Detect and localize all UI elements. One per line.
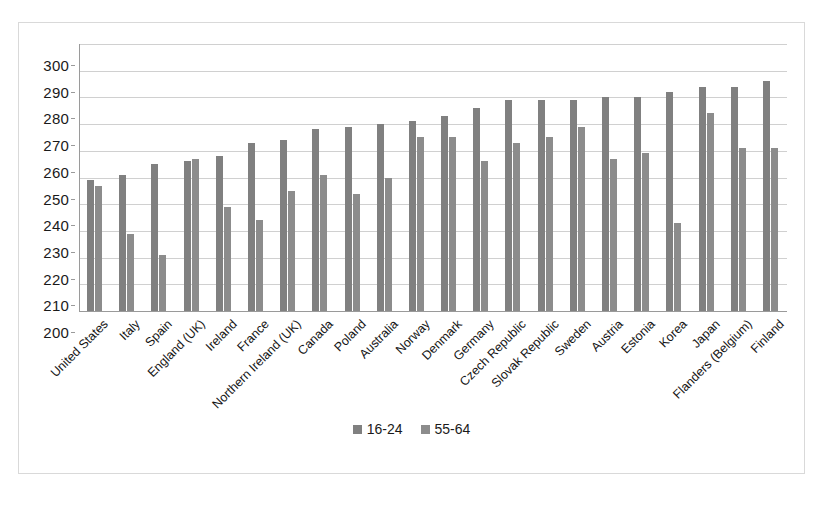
y-tickmark-230 [71,252,75,253]
y-tick-label-240: 240 [43,217,69,234]
bar-55-64 [353,194,360,311]
y-tickmark-250 [71,199,75,200]
bar-group [755,44,787,311]
y-tick-label-250: 250 [43,190,69,207]
y-tick-label-200: 200 [43,324,69,341]
bar-16-24 [377,124,384,311]
plot-area [79,44,787,311]
bar-16-24 [248,143,255,311]
bar-16-24 [570,100,577,311]
bar-group [723,44,755,311]
y-tick-label-260: 260 [43,163,69,180]
y-tick-label-270: 270 [43,137,69,154]
bar-group [530,44,562,311]
bar-55-64 [707,113,714,311]
x-tick-label: Korea [657,317,690,350]
y-tick-label-220: 220 [43,270,69,287]
bar-group [369,44,401,311]
legend-label: 55-64 [435,421,471,437]
bars-layer [79,44,787,311]
y-tickmark-280 [71,118,75,119]
legend-swatch-icon [353,425,362,434]
y-tickmark-220 [71,279,75,280]
bar-55-64 [739,148,746,311]
bar-16-24 [634,97,641,311]
bar-55-64 [288,191,295,311]
bar-group [176,44,208,311]
y-tickmark-200 [71,332,75,333]
bar-16-24 [119,175,126,311]
y-tickmark-260 [71,172,75,173]
y-axis-labels: 300290280270260250240230220210200 [19,44,75,311]
bar-55-64 [449,137,456,311]
bar-55-64 [642,153,649,311]
bar-16-24 [345,127,352,311]
bar-55-64 [674,223,681,311]
legend-swatch-icon [421,425,430,434]
bar-16-24 [666,92,673,311]
y-tickmark-210 [71,305,75,306]
bar-group [433,44,465,311]
x-tick-label: Canada [295,317,336,358]
bar-group [690,44,722,311]
bar-55-64 [159,255,166,311]
bar-55-64 [95,186,102,311]
y-tick-label-300: 300 [43,57,69,74]
bar-55-64 [127,234,134,311]
y-tickmark-290 [71,92,75,93]
bar-16-24 [602,97,609,311]
y-tick-label-290: 290 [43,83,69,100]
bar-16-24 [409,121,416,311]
legend-label: 16-24 [367,421,403,437]
bar-group [208,44,240,311]
bar-55-64 [481,161,488,311]
bar-55-64 [578,127,585,311]
bar-55-64 [192,159,199,311]
bar-group [497,44,529,311]
chart-legend: 16-2455-64 [19,421,804,437]
legend-item[interactable]: 55-64 [421,421,471,437]
gridline-200 [79,311,787,312]
x-axis-category-labels: United StatesItalySpainEngland (UK)Irela… [79,315,787,425]
bar-55-64 [224,207,231,311]
bar-16-24 [505,100,512,311]
bar-group [465,44,497,311]
bar-16-24 [87,180,94,311]
bar-55-64 [256,220,263,311]
x-tick-label: Finland [748,317,787,356]
bar-55-64 [513,143,520,311]
bar-16-24 [538,100,545,311]
bar-55-64 [385,178,392,312]
bar-16-24 [280,140,287,311]
bar-group [79,44,111,311]
bar-group [336,44,368,311]
bar-16-24 [184,161,191,311]
bar-group [143,44,175,311]
bar-16-24 [151,164,158,311]
bar-group [401,44,433,311]
chart-container: 300290280270260250240230220210200 United… [18,22,805,474]
y-tick-label-280: 280 [43,110,69,127]
bar-16-24 [216,156,223,311]
bar-55-64 [546,137,553,311]
y-tick-label-230: 230 [43,243,69,260]
bar-55-64 [610,159,617,311]
y-tick-label-210: 210 [43,297,69,314]
bar-16-24 [699,87,706,311]
bar-16-24 [312,129,319,311]
bar-16-24 [441,116,448,311]
y-tickmark-300 [71,65,75,66]
bar-55-64 [417,137,424,311]
bar-55-64 [320,175,327,311]
bar-group [658,44,690,311]
bar-16-24 [763,81,770,311]
y-tickmark-270 [71,145,75,146]
bar-group [272,44,304,311]
y-tickmark-240 [71,225,75,226]
bar-group [240,44,272,311]
x-tick-label: Italy [117,317,143,343]
legend-item[interactable]: 16-24 [353,421,403,437]
bar-group [626,44,658,311]
x-tick-label: Ireland [203,317,240,354]
bar-group [111,44,143,311]
